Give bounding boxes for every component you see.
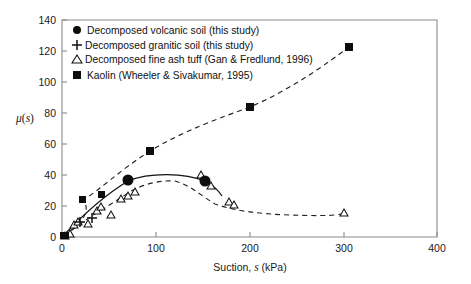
y-tick-label: 140	[38, 14, 56, 26]
x-tick-label: 300	[335, 242, 353, 254]
y-tick-label: 60	[44, 138, 56, 150]
y-tick-label: 20	[44, 200, 56, 212]
legend-label-fine-ash-tuff: Decomposed fine ash tuff (Gan & Fredlund…	[85, 54, 313, 65]
legend-label-granitic-soil: Decomposed granitic soil (this study)	[85, 40, 253, 51]
x-tick-label: 100	[147, 242, 165, 254]
x-axis-title-suffix: (kPa)	[259, 261, 287, 273]
svg-text:Suction, s (kPa): Suction, s (kPa)	[213, 261, 286, 273]
x-tick-label: 200	[241, 242, 259, 254]
x-tick-label: 0	[59, 242, 65, 254]
y-axis-title-paren-close: )	[30, 112, 34, 125]
chart-figure: 0 20 40 60 80 100 120 140 0 100 200 300 …	[0, 0, 471, 284]
y-tick-label: 120	[38, 45, 56, 57]
suction-vs-mu-scatter-chart: 0 20 40 60 80 100 120 140 0 100 200 300 …	[0, 0, 471, 284]
svg-text:μ(s): μ(s)	[15, 112, 34, 125]
y-tick-label: 80	[44, 107, 56, 119]
legend-label-volcanic-soil: Decomposed volcanic soil (this study)	[87, 25, 259, 36]
x-tick-label: 400	[428, 242, 446, 254]
legend-marker-filled-circle-icon	[73, 26, 81, 34]
x-axis-title-prefix: Suction,	[213, 261, 254, 273]
legend-label-kaolin: Kaolin (Wheeler & Sivakumar, 1995)	[87, 70, 253, 81]
y-tick-label: 0	[50, 231, 56, 243]
y-axis-title: μ(s)	[15, 112, 34, 125]
legend-marker-filled-square-icon	[73, 71, 81, 79]
y-tick-label: 100	[38, 76, 56, 88]
x-axis-title: Suction, s (kPa)	[213, 261, 286, 273]
y-tick-label: 40	[44, 169, 56, 181]
